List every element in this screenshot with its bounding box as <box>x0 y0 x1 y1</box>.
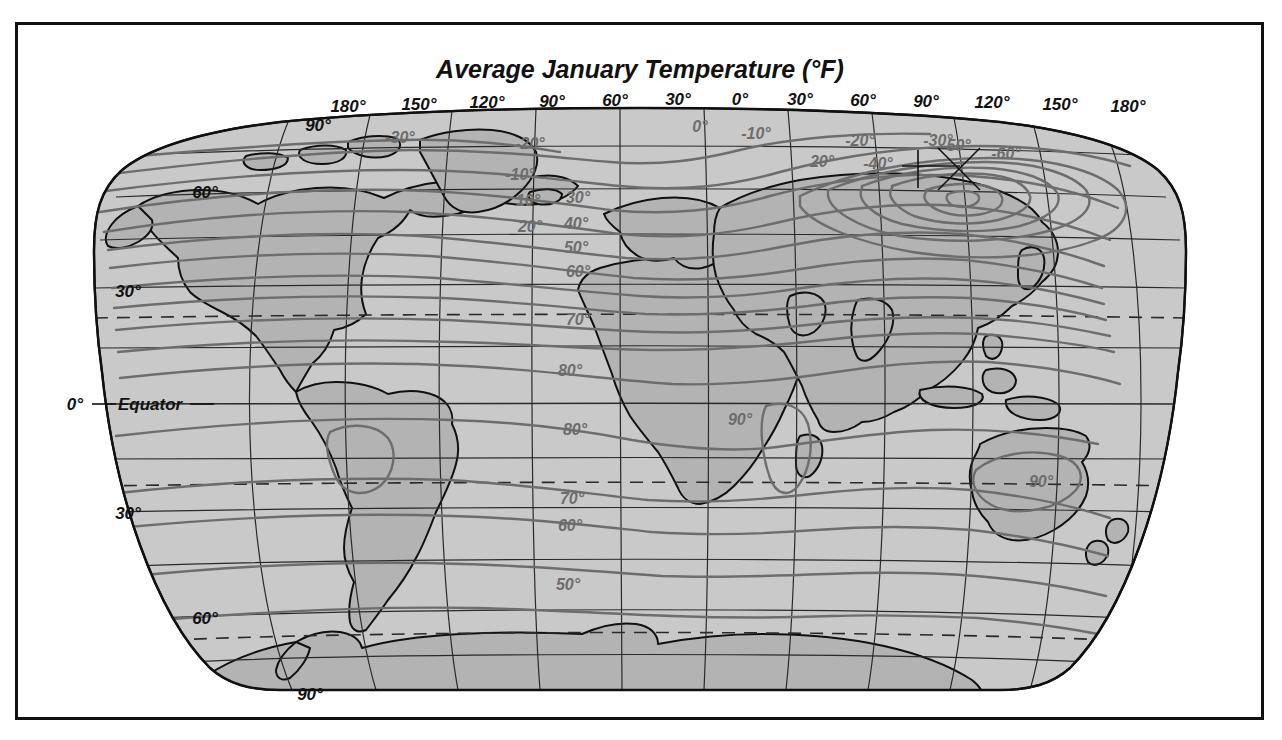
longitude-label-120e: 120° <box>974 93 1009 112</box>
equator-label: Equator <box>118 395 184 414</box>
isotherm-label-30: 30° <box>566 189 591 206</box>
map-title: Average January Temperature (°F) <box>435 55 844 83</box>
isotherm-label-20: 20° <box>517 218 543 235</box>
longitude-label-60e: 60° <box>850 91 876 110</box>
isotherm-label-siberia-20: 20° <box>809 153 835 170</box>
latitude-label-90n: 90° <box>305 116 331 135</box>
latitude-label-60n: 60° <box>192 183 218 202</box>
isotherm-label-40: 40° <box>563 215 589 232</box>
isotherm-label-siberia-n40: -40° <box>863 155 893 172</box>
longitude-label-150e: 150° <box>1042 95 1077 114</box>
longitude-label-150w: 150° <box>401 95 436 114</box>
longitude-label-30w: 30° <box>665 90 691 109</box>
isotherm-label-siberia-n20: -20° <box>845 132 875 149</box>
longitude-label-90e: 90° <box>913 92 939 111</box>
isotherm-label-50s: 50° <box>556 576 581 593</box>
latitude-label-30s: 30° <box>115 504 141 523</box>
isotherm-label-siberia-n50: -50° <box>941 137 971 154</box>
isotherm-label-90-africa: 90° <box>728 411 753 428</box>
figure-root: Average January Temperature (°F) 180° 15… <box>0 0 1282 740</box>
world-temperature-map: Average January Temperature (°F) 180° 15… <box>0 0 1282 740</box>
isotherm-label-n30: -30° <box>385 129 415 146</box>
longitude-label-90w: 90° <box>539 92 565 111</box>
isotherm-label-80n: 80° <box>558 362 583 379</box>
longitude-label-0: 0° <box>732 90 748 109</box>
isotherm-label-80s: 80° <box>563 421 588 438</box>
longitude-label-180e: 180° <box>1110 97 1145 116</box>
isotherm-label-n20: -20° <box>515 135 545 152</box>
isotherm-label-arctic-n10: -10° <box>741 125 771 142</box>
isotherm-label-n10: -10° <box>505 166 535 183</box>
latitude-label-30n: 30° <box>115 282 141 301</box>
parallel-equator <box>95 403 1186 404</box>
latitude-label-0: 0° <box>67 395 83 414</box>
longitude-label-120w: 120° <box>469 93 504 112</box>
longitude-label-180w: 180° <box>330 97 365 116</box>
isotherm-label-90-australia: 90° <box>1029 473 1054 490</box>
longitude-label-60w: 60° <box>602 91 628 110</box>
longitude-label-30e: 30° <box>787 90 813 109</box>
isotherm-label-siberia-n60: -60° <box>991 145 1021 162</box>
isotherm-label-70n: 70° <box>566 311 591 328</box>
isotherm-label-60: 60° <box>566 263 591 280</box>
isotherm-label-10: 10° <box>516 192 541 209</box>
isotherm-label-60s: 60° <box>558 517 583 534</box>
land-indonesia-2 <box>983 368 1016 393</box>
latitude-label-90s: 90° <box>297 685 323 704</box>
isotherm-label-arctic-0: 0° <box>692 118 708 135</box>
latitude-label-60s: 60° <box>192 609 218 628</box>
isotherm-label-50: 50° <box>564 239 589 256</box>
isotherm-label-70s: 70° <box>560 490 585 507</box>
